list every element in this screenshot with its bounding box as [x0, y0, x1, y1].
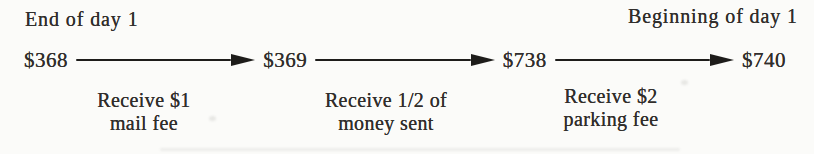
arrow-head [231, 54, 255, 66]
arrow-right-icon [76, 53, 255, 67]
arrow-shaft [555, 59, 710, 61]
scan-artifact-speck [209, 116, 216, 121]
amount-start: $368 [24, 48, 68, 73]
amount-final: $740 [742, 48, 786, 73]
scan-artifact-streak [160, 148, 680, 151]
arrow-head [710, 54, 734, 66]
step-label-line-1: Receive $1 [97, 89, 190, 112]
amount-after-step-1: $369 [263, 48, 307, 73]
step-label-money-sent: Receive 1/2 of money sent [325, 89, 447, 135]
timeline-start-label: End of day 1 [25, 8, 139, 31]
step-label-line-2: parking fee [564, 108, 659, 131]
step-label-line-2: money sent [325, 112, 447, 135]
arrow-right-icon [315, 53, 494, 67]
arrow-right-icon [555, 53, 734, 67]
arrow-shaft [315, 59, 470, 61]
arrow-head [471, 54, 495, 66]
step-label-line-2: mail fee [97, 112, 190, 135]
amount-flow-row: $368 $369 $738 $740 [0, 46, 814, 74]
timeline-end-label: Beginning of day 1 [628, 5, 798, 28]
amount-after-step-2: $738 [503, 48, 547, 73]
step-label-line-1: Receive $2 [564, 85, 659, 108]
step-label-mail-fee: Receive $1 mail fee [97, 89, 190, 135]
step-label-line-1: Receive 1/2 of [325, 89, 447, 112]
step-label-parking-fee: Receive $2 parking fee [564, 85, 659, 131]
money-flow-diagram: End of day 1 Beginning of day 1 $368 $36… [0, 0, 814, 154]
scan-artifact-speck [681, 80, 688, 85]
arrow-shaft [76, 59, 231, 61]
